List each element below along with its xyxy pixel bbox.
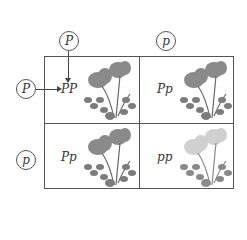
flower-dark-icon [80,125,138,189]
allele-label: P [65,34,73,48]
flower-dark-icon [80,58,138,122]
parent-allele-left-1: P [16,79,36,99]
grid-divider-horizontal [44,123,234,124]
parent-allele-left-2: p [16,150,36,170]
genotype-label: pp [157,150,172,164]
parent-allele-top-2: p [156,31,176,51]
flower-dark-icon [176,58,234,122]
allele-label: p [162,34,170,48]
genotype-label: PP [61,82,77,96]
parent-allele-top-1: P [59,31,79,51]
allele-label: P [22,82,30,96]
flower-pale-icon [176,125,234,189]
genotype-label: Pp [61,150,77,164]
allele-label: p [22,153,30,167]
genotype-label: Pp [157,82,173,96]
